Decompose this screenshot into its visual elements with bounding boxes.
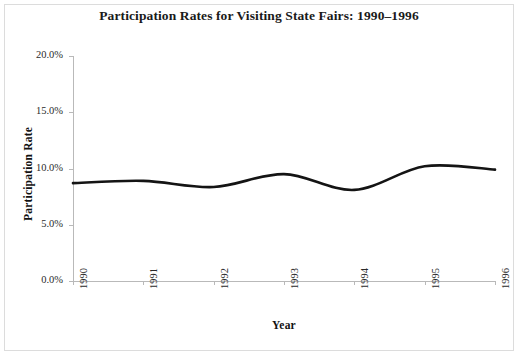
x-tick-label: 1990	[78, 268, 89, 289]
y-tick-label: 15.0%	[17, 105, 63, 116]
x-tick-label: 1991	[148, 268, 159, 289]
x-tick-label: 1994	[359, 268, 370, 289]
y-tick-label: 5.0%	[17, 218, 63, 229]
x-tick-label: 1993	[289, 268, 300, 289]
plot-area	[0, 0, 518, 355]
data-series-line	[73, 165, 495, 190]
x-tick-label: 1996	[500, 268, 511, 289]
x-tick-label: 1995	[430, 268, 441, 289]
axes-group	[73, 56, 495, 282]
y-tick-marks	[69, 57, 73, 282]
y-tick-label: 10.0%	[17, 162, 63, 173]
y-tick-label: 0.0%	[17, 274, 63, 285]
x-tick-label: 1992	[219, 268, 230, 289]
y-tick-label: 20.0%	[17, 49, 63, 60]
chart-figure: Participation Rates for Visiting State F…	[0, 0, 518, 355]
